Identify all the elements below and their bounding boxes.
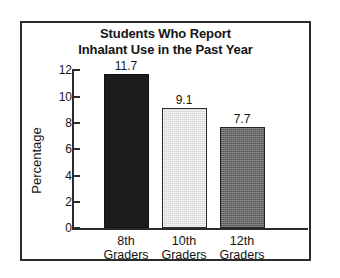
y-tick-label-12: 12 [46,64,72,76]
x-axis-line [72,228,308,230]
y-tick-12 [74,69,80,71]
bar-value-10th-graders: 9.1 [154,94,214,106]
y-tick-label-10: 10 [46,91,72,103]
y-tick-4 [74,175,80,177]
y-axis-label: Percentage [29,111,44,211]
y-tick-label-2: 2 [46,196,72,208]
chart-figure: Students Who Report Inhalant Use in the … [0,0,340,278]
y-tick-10 [74,96,80,98]
chart-title: Students Who Report Inhalant Use in the … [22,26,309,58]
bar-12th-graders[interactable] [220,127,265,228]
x-label-12th-line-1: 12th [206,234,278,248]
y-tick-label-6: 6 [46,143,72,155]
y-tick-label-0: 0 [46,222,72,234]
chart-title-line-1: Students Who Report [22,26,309,42]
y-tick-label-4: 4 [46,170,72,182]
bar-8th-graders[interactable] [104,74,149,228]
bar-10th-graders[interactable] [162,108,207,228]
y-tick-0 [74,227,80,229]
x-label-12th-graders: 12th Graders [206,234,278,262]
y-tick-2 [74,201,80,203]
bar-value-12th-graders: 7.7 [212,113,272,125]
y-tick-label-8: 8 [46,117,72,129]
y-tick-6 [74,148,80,150]
bar-value-8th-graders: 11.7 [96,60,156,72]
chart-title-line-2: Inhalant Use in the Past Year [22,42,309,58]
x-label-12th-line-2: Graders [206,248,278,262]
y-tick-8 [74,122,80,124]
